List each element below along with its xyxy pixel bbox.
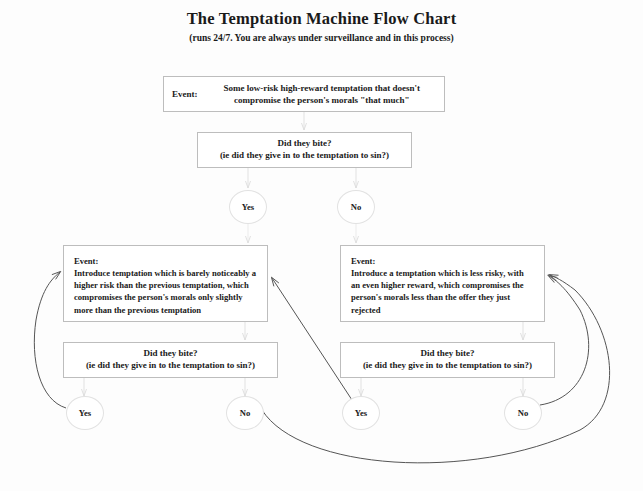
decision-right-question: Did they bite? [421,348,475,360]
decision-left-box: Did they bite? (ie did they give in to t… [63,342,278,378]
event-right-label: Event: [351,255,534,267]
event-left-label: Event: [74,255,257,267]
decision-left-question: Did they bite? [144,348,198,360]
flowchart-canvas: The Temptation Machine Flow Chart (runs … [0,0,643,491]
answer-left-yes: Yes [66,396,104,430]
decision-top-question: Did they bite? [278,138,332,150]
answer-top-no: No [337,190,375,224]
decision-left-clarifier: (ie did they give in to the temptation t… [86,360,255,372]
event-top-label: Event: [172,89,208,99]
answer-top-yes-label: Yes [242,203,254,212]
event-left-box: Event: Introduce temptation which is bar… [63,245,268,322]
page-subtitle: (runs 24/7. You are always under surveil… [0,33,643,44]
title-block: The Temptation Machine Flow Chart (runs … [0,10,643,44]
decision-top-box: Did they bite? (ie did they give in to t… [197,132,412,168]
answer-right-no-label: No [518,409,529,418]
decision-right-clarifier: (ie did they give in to the temptation t… [363,360,532,372]
answer-top-no-label: No [351,203,362,212]
event-left-text: Introduce temptation which is barely not… [74,267,257,316]
answer-left-yes-label: Yes [79,409,91,418]
answer-left-no-label: No [240,409,251,418]
node-layer: The Temptation Machine Flow Chart (runs … [0,0,643,491]
event-top-text: Some low-risk high-reward temptation tha… [208,82,437,106]
answer-right-yes-label: Yes [355,409,367,418]
event-right-box: Event: Introduce a temptation which is l… [340,245,545,322]
page-title: The Temptation Machine Flow Chart [0,10,643,29]
answer-left-no: No [226,396,264,430]
decision-right-box: Did they bite? (ie did they give in to t… [340,342,555,378]
answer-right-no: No [504,396,542,430]
event-top-box: Event: Some low-risk high-reward temptat… [163,76,445,112]
decision-top-clarifier: (ie did they give in to the temptation t… [220,150,389,162]
event-right-text: Introduce a temptation which is less ris… [351,267,534,316]
answer-top-yes: Yes [229,190,267,224]
answer-right-yes: Yes [342,396,380,430]
